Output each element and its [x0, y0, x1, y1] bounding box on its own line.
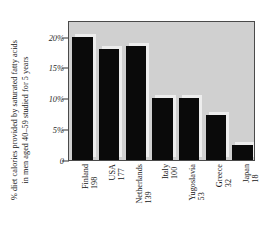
bar-slot [99, 22, 119, 160]
bar-slot [152, 22, 172, 160]
y-axis-tick-label: 5% [38, 126, 64, 135]
x-axis-category-name: Japan [242, 164, 251, 183]
x-axis-category-name: USA [108, 164, 117, 180]
y-axis-title-line-1: % diet calories provided by saturated fa… [10, 39, 21, 199]
x-axis-label-slot: Japan18 [228, 162, 255, 239]
bar-slot [72, 22, 92, 160]
bar[interactable] [179, 98, 199, 160]
x-axis-category-name: Netherlands [135, 164, 144, 204]
y-axis-tick-label: 20% [38, 33, 64, 42]
bar-slot [179, 22, 199, 160]
bar[interactable] [206, 115, 226, 160]
bar[interactable] [126, 46, 146, 160]
bar-slot [232, 22, 252, 160]
x-axis-label-slot: USA177 [95, 162, 122, 239]
x-axis-label-slot: Greece32 [202, 162, 229, 239]
bar-slot [206, 22, 226, 160]
x-axis-label-slot: Netherlands139 [121, 162, 148, 239]
y-axis-title-line-2: in men aged 40–59 studied for 5 years [20, 39, 31, 199]
x-axis-category-value: 18 [251, 164, 260, 183]
bar-chart-figure: % diet calories provided by saturated fa… [0, 0, 268, 239]
y-axis-tick-labels: 05%10%15%20% [38, 0, 64, 239]
x-axis-label-slot: Italy100 [148, 162, 175, 239]
bar[interactable] [72, 37, 92, 160]
bar[interactable] [232, 145, 252, 160]
y-axis-title: % diet calories provided by saturated fa… [0, 0, 40, 239]
y-axis-title-text: % diet calories provided by saturated fa… [10, 39, 31, 199]
x-axis-label-slot: Finland198 [68, 162, 95, 239]
bar[interactable] [99, 49, 119, 160]
y-axis-tick-label: 15% [38, 64, 64, 73]
x-axis-category-name: Finland [81, 164, 90, 189]
bar[interactable] [152, 98, 172, 160]
bar-slot [126, 22, 146, 160]
x-axis-tick-label: Japan18 [242, 164, 260, 183]
x-axis-category-name: Greece [215, 164, 224, 187]
x-axis-tick-labels: Finland198USA177Netherlands139Italy100Yu… [68, 162, 255, 239]
y-axis-tick-label: 10% [38, 95, 64, 104]
plot-area [68, 21, 255, 161]
y-axis-tick-label: 0 [38, 157, 64, 166]
x-axis-label-slot: Yugoslavia53 [175, 162, 202, 239]
x-axis-category-name: Yugoslavia [188, 164, 197, 200]
bars-layer [69, 22, 254, 160]
